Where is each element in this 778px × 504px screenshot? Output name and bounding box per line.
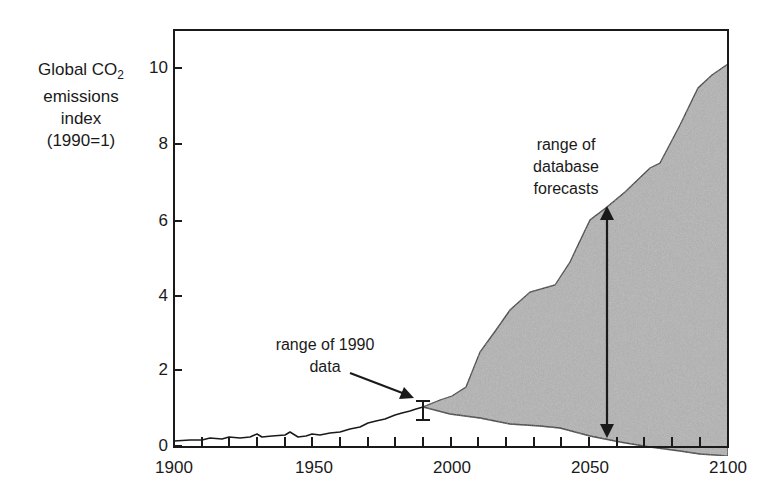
annotation-1990-line-1: range of 1990	[250, 334, 400, 356]
y-tick-10: 10	[138, 58, 168, 78]
y-axis-label-line-3: index	[20, 108, 142, 130]
x-tick-2000: 2000	[422, 458, 482, 478]
y-tick-0: 0	[138, 436, 168, 456]
annotation-1990-data: range of 1990 data	[250, 334, 400, 378]
x-tick-1900: 1900	[144, 458, 204, 478]
annotation-1990-line-2: data	[250, 356, 400, 378]
y-axis-ticks	[174, 68, 182, 446]
y-axis-label-line-4: (1990=1)	[20, 130, 142, 152]
annotation-forecasts-line-2: database	[506, 156, 626, 178]
y-axis-label-line-1: Global CO	[38, 60, 117, 79]
x-tick-2100: 2100	[698, 458, 758, 478]
annotation-forecasts-line-3: forecasts	[506, 178, 626, 200]
annotation-forecasts-line-1: range of	[506, 134, 626, 156]
y-axis-label-line-2: emissions	[20, 86, 142, 108]
x-tick-2050: 2050	[560, 458, 620, 478]
y-axis-label-subscript: 2	[117, 68, 124, 82]
y-tick-4: 4	[138, 286, 168, 306]
forecast-range-area	[423, 64, 728, 456]
y-axis-label: Global CO2 emissions index (1990=1)	[20, 59, 142, 152]
error-bar-1990	[416, 401, 430, 420]
y-tick-2: 2	[138, 360, 168, 380]
y-tick-8: 8	[138, 134, 168, 154]
historical-emissions-line	[174, 407, 423, 441]
annotation-database-forecasts: range of database forecasts	[506, 134, 626, 200]
y-tick-6: 6	[138, 211, 168, 231]
x-tick-1950: 1950	[284, 458, 344, 478]
